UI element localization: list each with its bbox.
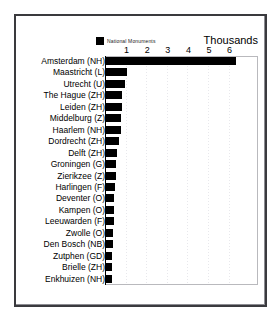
x-tick-label-1: 1 (124, 45, 129, 55)
category-label: Maastricht (L) (53, 67, 105, 77)
x-tick-label-2: 2 (145, 45, 150, 55)
bar-row: Utrecht (U) (0, 79, 280, 90)
bar-row: Harlingen (F) (0, 182, 280, 193)
bar-row: Leeuwarden (F) (0, 216, 280, 227)
bar-row: Delft (ZH) (0, 148, 280, 159)
bar-row: Groningen (G) (0, 159, 280, 170)
bar (106, 126, 121, 134)
bar-row: Amsterdam (NH) (0, 56, 280, 67)
bar-row: The Hague (ZH) (0, 90, 280, 101)
x-tick-label-3: 3 (165, 45, 170, 55)
category-label: Dordrecht (ZH) (48, 136, 105, 146)
bar-row: Deventer (O) (0, 193, 280, 204)
category-label: Middelburg (Z) (50, 113, 105, 123)
bar (106, 252, 112, 260)
category-label: Amsterdam (NH) (41, 56, 105, 66)
category-label: Zierikzee (Z) (57, 171, 105, 181)
category-label: Kampen (O) (59, 205, 105, 215)
x-tick-label-4: 4 (186, 45, 191, 55)
bar-row: Haarlem (NH) (0, 125, 280, 136)
bar (106, 206, 114, 214)
x-axis-tick-labels: 123456 (0, 45, 280, 56)
bar (106, 229, 113, 237)
bar-row: Maastricht (L) (0, 67, 280, 78)
category-label: Zutphen (GD) (53, 251, 105, 261)
bar-row: Kampen (O) (0, 205, 280, 216)
category-label: Leiden (ZH) (60, 102, 105, 112)
category-label: The Hague (ZH) (44, 90, 105, 100)
bar (106, 183, 115, 191)
category-label: Delft (ZH) (68, 148, 105, 158)
bar (106, 194, 114, 202)
bar (106, 149, 117, 157)
chart-plot-container: National Monuments Thousands 123456 Amst… (0, 0, 280, 325)
bar (106, 217, 114, 225)
bar-row: Dordrecht (ZH) (0, 136, 280, 147)
legend-label-national-monuments: National Monuments (107, 37, 156, 45)
bar-row: Den Bosch (NB) (0, 239, 280, 250)
bar (106, 240, 113, 248)
bar (106, 80, 125, 88)
bar (106, 57, 236, 65)
category-label: Haarlem (NH) (53, 125, 105, 135)
bar-row: Zierikzee (Z) (0, 171, 280, 182)
bar (106, 91, 122, 99)
category-label: Harlingen (F) (55, 182, 105, 192)
bar-row: Leiden (ZH) (0, 102, 280, 113)
bar (106, 263, 112, 271)
category-label: Groningen (G) (51, 159, 105, 169)
category-label: Brielle (ZH) (62, 262, 105, 272)
bar-rows: Amsterdam (NH)Maastricht (L)Utrecht (U)T… (0, 56, 280, 285)
category-label: Enkhuizen (NH) (45, 274, 105, 284)
bar-row: Enkhuizen (NH) (0, 274, 280, 285)
bar (106, 160, 116, 168)
bar-row: Zwolle (O) (0, 228, 280, 239)
chart-figure: National Monuments Thousands 123456 Amst… (0, 0, 280, 325)
bar (106, 68, 127, 76)
bar (106, 103, 122, 111)
x-tick-label-5: 5 (206, 45, 211, 55)
category-label: Zwolle (O) (66, 228, 105, 238)
bar-row: Middelburg (Z) (0, 113, 280, 124)
bar (106, 172, 116, 180)
bar-row: Zutphen (GD) (0, 251, 280, 262)
bar (106, 137, 119, 145)
legend-swatch-national-monuments (96, 37, 104, 45)
bar-row: Brielle (ZH) (0, 262, 280, 273)
category-label: Utrecht (U) (63, 79, 105, 89)
x-tick-label-6: 6 (227, 45, 232, 55)
bar (106, 275, 112, 283)
category-label: Deventer (O) (56, 193, 105, 203)
bar (106, 114, 121, 122)
category-label: Leeuwarden (F) (45, 216, 105, 226)
category-label: Den Bosch (NB) (44, 239, 105, 249)
